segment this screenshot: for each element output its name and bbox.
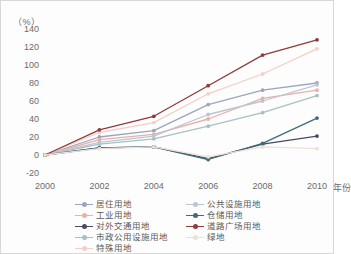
legend-marker-icon	[75, 222, 93, 230]
x-axis-tick: 2002	[89, 181, 109, 191]
series-data-point	[206, 92, 210, 96]
legend-item-label: 道路广场用地	[207, 221, 261, 231]
series-data-point	[152, 129, 156, 133]
legend-marker-icon	[75, 233, 93, 241]
legend-item[interactable]: 市政公用设施用地	[75, 232, 168, 242]
series-data-point	[98, 128, 102, 132]
series-data-point	[315, 38, 319, 42]
series-data-point	[261, 141, 265, 145]
series-data-point	[315, 147, 319, 151]
series-line	[45, 49, 317, 155]
legend-item[interactable]: 特殊用地	[75, 243, 168, 253]
legend-item-label: 对外交通用地	[96, 221, 150, 231]
chart-series	[43, 83, 319, 157]
series-data-point	[152, 145, 156, 149]
series-data-point	[98, 141, 102, 145]
series-data-point	[315, 88, 319, 92]
legend-column: 居住用地工业用地对外交通用地市政公用设施用地特殊用地	[75, 197, 168, 253]
series-line	[45, 85, 317, 155]
series-data-point	[315, 116, 319, 120]
legend-item[interactable]: 对外交通用地	[75, 221, 168, 231]
chart-series	[43, 47, 319, 157]
series-data-point	[152, 134, 156, 138]
series-data-point	[98, 147, 102, 151]
legend-item-label: 特殊用地	[96, 243, 132, 253]
series-data-point	[206, 155, 210, 159]
series-data-point	[261, 72, 265, 76]
x-axis-tick: 2010	[307, 181, 327, 191]
chart-legend: 居住用地工业用地对外交通用地市政公用设施用地特殊用地公共设施用地仓储用地道路广场…	[1, 197, 335, 253]
series-data-point	[152, 114, 156, 118]
series-line	[45, 147, 317, 157]
legend-marker-icon	[186, 222, 204, 230]
series-data-point	[206, 113, 210, 117]
series-data-point	[315, 47, 319, 51]
legend-item[interactable]: 公共设施用地	[186, 199, 261, 209]
series-data-point	[261, 145, 265, 149]
series-data-point	[43, 153, 47, 157]
legend-item[interactable]: 工业用地	[75, 210, 168, 220]
x-axis-tick: 2004	[144, 181, 164, 191]
series-data-point	[261, 99, 265, 103]
legend-item-label: 居住用地	[96, 199, 132, 209]
legend-item[interactable]: 道路广场用地	[186, 221, 261, 231]
series-data-point	[315, 134, 319, 138]
chart-plot-area: （%） 140120100806040200-20 20002002200420…	[1, 1, 335, 199]
series-data-point	[206, 103, 210, 107]
series-data-point	[206, 124, 210, 128]
legend-item-label: 市政公用设施用地	[96, 232, 168, 242]
legend-column: 公共设施用地仓储用地道路广场用地绿地	[186, 197, 261, 253]
series-data-point	[152, 121, 156, 125]
line-chart-svg	[1, 1, 335, 199]
legend-item-label: 绿地	[207, 232, 225, 242]
x-axis-tick: 2006	[198, 181, 218, 191]
legend-item[interactable]: 居住用地	[75, 199, 168, 209]
legend-item[interactable]: 绿地	[186, 232, 261, 242]
legend-item-label: 仓储用地	[207, 210, 243, 220]
legend-marker-icon	[75, 211, 93, 219]
legend-marker-icon	[186, 211, 204, 219]
legend-marker-icon	[75, 244, 93, 252]
x-axis-tick: 2008	[253, 181, 273, 191]
series-data-point	[206, 84, 210, 88]
series-data-point	[261, 111, 265, 115]
series-data-point	[315, 94, 319, 98]
series-data-point	[261, 88, 265, 92]
x-axis-title: 年份	[333, 181, 351, 194]
legend-item-label: 工业用地	[96, 210, 132, 220]
series-data-point	[315, 83, 319, 87]
series-data-point	[261, 53, 265, 57]
x-axis-tick: 2000	[35, 181, 55, 191]
legend-marker-icon	[186, 200, 204, 208]
legend-item-label: 公共设施用地	[207, 199, 261, 209]
legend-item[interactable]: 仓储用地	[186, 210, 261, 220]
series-data-point	[206, 117, 210, 121]
legend-marker-icon	[186, 233, 204, 241]
legend-marker-icon	[75, 200, 93, 208]
